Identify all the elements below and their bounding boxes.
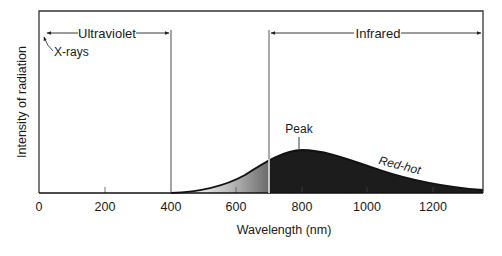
x-axis-title: Wavelength (nm)	[237, 223, 332, 237]
tick-0: 0	[36, 200, 43, 214]
tick-200: 200	[95, 200, 116, 214]
xrays-pointer	[44, 37, 53, 51]
y-axis-title: Intensity of radiation	[15, 46, 29, 158]
tick-800: 800	[292, 200, 313, 214]
blackbody-radiation-chart: Ultraviolet Infrared X-rays Peak Red-hot…	[0, 0, 502, 256]
ultraviolet-label: Ultraviolet	[78, 26, 136, 41]
x-tick-labels: 0 200 400 600 800 1000 1200	[36, 200, 447, 214]
tick-400: 400	[161, 200, 182, 214]
tick-600: 600	[226, 200, 247, 214]
xrays-label: X-rays	[54, 45, 89, 59]
tick-1200: 1200	[419, 200, 447, 214]
curve-visible-fill	[171, 159, 269, 193]
tick-1000: 1000	[353, 200, 381, 214]
peak-label: Peak	[285, 122, 313, 136]
infrared-label: Infrared	[356, 26, 401, 41]
